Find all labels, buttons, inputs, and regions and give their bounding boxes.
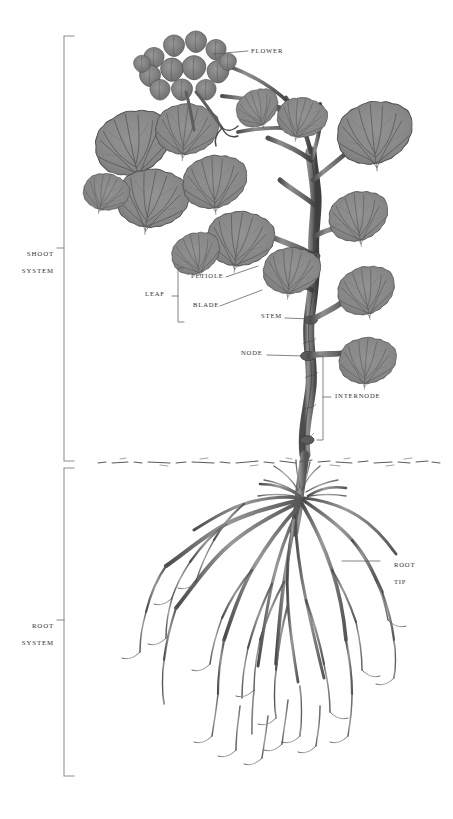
bracket-shoot-system <box>57 36 74 461</box>
label-stem: STEM <box>261 312 282 321</box>
shoot-system-line-1: SHOOT <box>27 250 54 257</box>
root-tip-line-1: ROOT <box>394 561 415 568</box>
label-leaf: LEAF <box>145 290 165 299</box>
plant-illustration <box>0 0 453 819</box>
root-system-line-2: SYSTEM <box>22 639 54 646</box>
root-tip-line-2: TIP <box>394 578 406 585</box>
bracket-root-system <box>57 468 74 776</box>
label-petiole: PETIOLE <box>191 272 224 281</box>
soil-line <box>98 458 440 466</box>
shoot-system-line-2: SYSTEM <box>22 267 54 274</box>
label-blade: BLADE <box>193 301 219 310</box>
label-shoot-system: SHOOT SYSTEM <box>6 241 54 285</box>
root-system-line-1: ROOT <box>32 622 54 629</box>
label-root-tip: ROOT TIP <box>384 552 415 596</box>
label-flower: FLOWER <box>251 47 283 56</box>
system-brackets <box>57 36 74 776</box>
root-system <box>122 455 406 765</box>
label-node: NODE <box>241 349 263 358</box>
label-root-system: ROOT SYSTEM <box>6 613 54 657</box>
plant-structure-figure: SHOOT SYSTEM ROOT SYSTEM FLOWER PETIOLE … <box>0 0 453 819</box>
label-internode: INTERNODE <box>335 392 380 401</box>
